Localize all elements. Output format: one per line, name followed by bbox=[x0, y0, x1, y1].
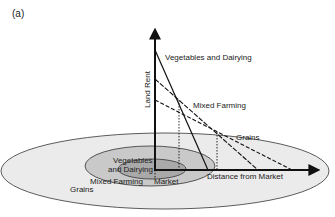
zone-label-market: Market bbox=[154, 177, 179, 186]
zone-label-grains: Grains bbox=[70, 185, 94, 194]
mixed-farming-line-label: Mixed Farming bbox=[193, 101, 246, 110]
y-axis-label: Land Rent bbox=[143, 70, 152, 108]
zone-label-vegetables-2: and Dairying bbox=[108, 165, 153, 174]
von-thunen-diagram: (a) Land Rent Distance from Market Veget… bbox=[0, 0, 335, 217]
grains-line-label: Grains bbox=[236, 133, 260, 142]
zone-label-mixed-farming: Mixed Farming bbox=[90, 177, 143, 186]
vegetables-line-label: Vegetables and Dairying bbox=[165, 53, 252, 62]
zone-label-vegetables-1: Vegetables bbox=[113, 156, 153, 165]
panel-label: (a) bbox=[12, 8, 24, 19]
x-axis-label: Distance from Market bbox=[207, 172, 284, 181]
